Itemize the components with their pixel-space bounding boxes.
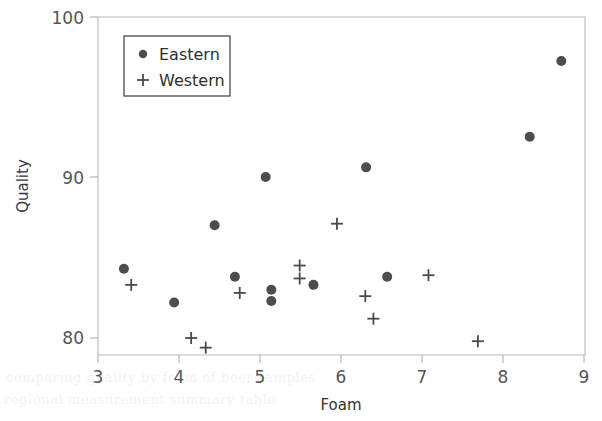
data-point-plus — [125, 279, 137, 291]
legend-entry-label: Eastern — [159, 45, 220, 64]
x-tick-label: 6 — [336, 367, 347, 387]
x-axis-tick-labels: 3 4 5 6 7 8 9 — [93, 367, 590, 387]
scatter-plot-figure: 3 4 5 6 7 8 9 80 90 100 Foam Quality Eas… — [0, 0, 602, 421]
data-point-circle — [361, 162, 371, 172]
x-tick-label: 9 — [579, 367, 590, 387]
data-point-plus — [331, 218, 343, 230]
y-tick-label: 100 — [52, 8, 84, 28]
x-axis-ticks — [98, 355, 584, 363]
x-tick-label: 3 — [93, 367, 104, 387]
data-point-plus — [234, 287, 246, 299]
data-point-circle — [556, 56, 566, 66]
data-point-circle — [169, 298, 179, 308]
data-point-circle — [382, 272, 392, 282]
y-tick-label: 80 — [62, 328, 84, 348]
y-axis-title: Quality — [14, 159, 32, 213]
data-point-circle — [308, 280, 318, 290]
data-point-plus — [294, 272, 306, 284]
data-point-plus — [200, 342, 212, 354]
data-point-circle — [119, 264, 129, 274]
plot-canvas: 3 4 5 6 7 8 9 80 90 100 Foam Quality Eas… — [0, 0, 602, 421]
x-tick-label: 7 — [417, 367, 428, 387]
legend-marker-circle-icon — [139, 50, 147, 58]
y-axis-ticks — [90, 17, 98, 338]
data-point-plus — [472, 335, 484, 347]
data-point-circle — [210, 220, 220, 230]
data-point-plus — [359, 290, 371, 302]
data-point-circle — [261, 172, 271, 182]
x-tick-label: 4 — [174, 367, 185, 387]
data-point-circle — [230, 272, 240, 282]
x-axis-title: Foam — [320, 396, 361, 414]
x-tick-label: 5 — [255, 367, 266, 387]
data-point-plus — [367, 313, 379, 325]
data-point-circle — [525, 132, 535, 142]
y-axis-tick-labels: 80 90 100 — [52, 8, 84, 348]
data-point-plus — [185, 332, 197, 344]
legend-entry-label: Western — [159, 71, 225, 90]
x-tick-label: 8 — [498, 367, 509, 387]
legend: Eastern Western — [124, 36, 230, 96]
y-tick-label: 90 — [62, 168, 84, 188]
data-point-plus — [294, 260, 306, 272]
data-point-plus — [422, 269, 434, 281]
data-point-circle — [266, 285, 276, 295]
series-western-points — [125, 218, 484, 354]
data-point-circle — [266, 296, 276, 306]
